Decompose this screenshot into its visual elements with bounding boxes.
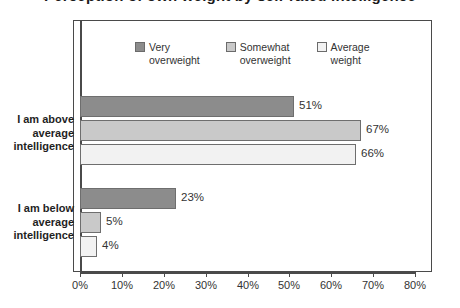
x-tick-label: 60%: [320, 279, 342, 291]
category-label-above-average: I am above average intelligence: [0, 113, 74, 154]
bar: [80, 144, 356, 165]
x-tick-label: 30%: [195, 279, 217, 291]
bar-row: 23%: [80, 188, 415, 209]
x-tick-label: 80%: [404, 279, 426, 291]
x-tick: [289, 272, 290, 277]
bar-row: 4%: [80, 236, 415, 257]
bar-value-label: 66%: [361, 147, 384, 159]
x-tick: [80, 272, 81, 277]
bar: [80, 120, 361, 141]
x-tick-label: 0%: [72, 279, 88, 291]
bar-value-label: 4%: [102, 239, 119, 251]
x-tick: [206, 272, 207, 277]
x-tick: [248, 272, 249, 277]
x-tick-label: 50%: [278, 279, 300, 291]
bar-value-label: 67%: [366, 123, 389, 135]
bar-group-above-average: 51%67%66%: [80, 96, 415, 168]
x-tick-label: 20%: [153, 279, 175, 291]
bar: [80, 96, 294, 117]
x-tick: [415, 272, 416, 277]
x-tick: [164, 272, 165, 277]
category-label-below-average: I am below average intelligence: [0, 202, 74, 243]
bar-group-below-average: 23%5%4%: [80, 188, 415, 260]
bar-row: 66%: [80, 144, 415, 165]
bar-row: 5%: [80, 212, 415, 233]
chart-legend: Very overweight Somewhat overweight Aver…: [135, 41, 369, 66]
x-axis-ticks: 0%10%20%30%40%50%60%70%80%: [80, 272, 415, 302]
x-tick: [373, 272, 374, 277]
x-tick-label: 10%: [111, 279, 133, 291]
chart-title: Perception of own weight by self-rated i…: [0, 0, 460, 4]
bar-value-label: 5%: [106, 215, 123, 227]
bar-row: 51%: [80, 96, 415, 117]
legend-item-average-weight: Average weight: [317, 41, 370, 66]
x-tick-label: 40%: [237, 279, 259, 291]
legend-label-very-overweight: Very overweight: [149, 41, 200, 66]
x-tick-label: 70%: [362, 279, 384, 291]
bar-row: 67%: [80, 120, 415, 141]
bar: [80, 188, 176, 209]
bar-value-label: 51%: [299, 99, 322, 111]
plot-area: 51%67%66% 23%5%4%: [80, 96, 415, 272]
legend-label-average-weight: Average weight: [331, 41, 370, 66]
legend-swatch-somewhat-overweight: [226, 42, 236, 52]
legend-label-somewhat-overweight: Somewhat overweight: [240, 41, 291, 66]
x-tick: [122, 272, 123, 277]
legend-swatch-very-overweight: [135, 42, 145, 52]
x-tick: [331, 272, 332, 277]
bar: [80, 212, 101, 233]
legend-item-very-overweight: Very overweight: [135, 41, 200, 66]
legend-swatch-average-weight: [317, 42, 327, 52]
bar-chart: Perception of own weight by self-rated i…: [0, 0, 460, 308]
bar-value-label: 23%: [181, 191, 204, 203]
bar: [80, 236, 97, 257]
legend-item-somewhat-overweight: Somewhat overweight: [226, 41, 291, 66]
